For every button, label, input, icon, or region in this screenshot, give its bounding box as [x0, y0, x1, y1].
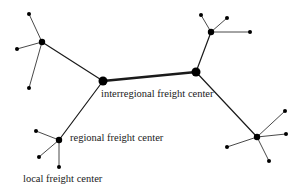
- local-freight-center-node: [284, 132, 288, 136]
- local-freight-center-node: [225, 145, 229, 149]
- edge-R3-L8: [257, 134, 286, 137]
- edge-R1-L2: [17, 42, 42, 49]
- edge-R3-L10: [257, 137, 269, 161]
- local-freight-center-node: [27, 12, 31, 16]
- edge-R4-L12: [39, 140, 59, 157]
- regional-freight-center-node: [56, 137, 62, 143]
- regional-freight-center-node: [39, 39, 45, 45]
- edge-I2-R2: [196, 32, 211, 72]
- local-freight-center-node: [57, 165, 61, 169]
- local-freight-center-node: [267, 159, 271, 163]
- interregional-freight-center-node: [99, 77, 108, 86]
- local-freight-center-label: local freight center: [23, 173, 103, 184]
- local-freight-center-node: [248, 30, 252, 34]
- local-freight-center-node: [37, 155, 41, 159]
- edge-R1-L3: [29, 42, 42, 88]
- local-freight-center-node: [283, 109, 287, 113]
- edge-I2-R3: [196, 72, 257, 137]
- edge-R3-L7: [257, 111, 285, 137]
- edge-R1-L1: [29, 14, 42, 42]
- local-freight-center-node: [199, 13, 203, 17]
- regional-freight-center-node: [254, 134, 260, 140]
- edge-R4-L11: [36, 131, 59, 140]
- edge-I1-I2: [103, 72, 196, 81]
- edge-I1-R1: [42, 42, 103, 81]
- freight-network-diagram: interregional freight center regional fr…: [0, 0, 303, 188]
- regional-freight-center-node: [208, 29, 214, 35]
- interregional-freight-center-node: [192, 68, 201, 77]
- interregional-freight-center-label: interregional freight center: [101, 88, 214, 99]
- local-freight-center-node: [34, 129, 38, 133]
- local-freight-center-node: [27, 86, 31, 90]
- regional-freight-center-label: regional freight center: [70, 132, 164, 143]
- local-freight-center-node: [225, 16, 229, 20]
- local-freight-center-node: [15, 47, 19, 51]
- edge-R3-L9: [227, 137, 257, 147]
